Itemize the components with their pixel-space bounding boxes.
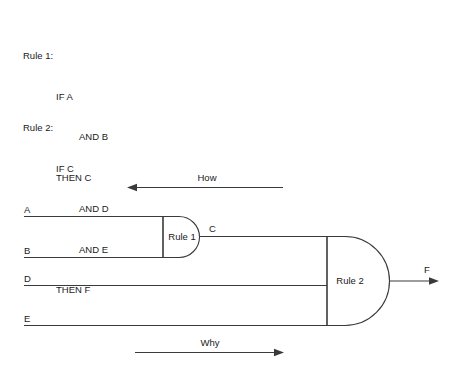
diagram-canvas: Rule 1: IF A AND B THEN C Rule 2: IF C A… bbox=[0, 0, 455, 373]
how-arrow bbox=[127, 184, 283, 191]
label-signal-b: B bbox=[24, 245, 30, 256]
label-signal-d: D bbox=[24, 273, 31, 284]
label-signal-a: A bbox=[24, 204, 30, 215]
diagram-graphics bbox=[0, 0, 455, 373]
label-signal-c: C bbox=[209, 223, 216, 234]
why-arrow bbox=[135, 349, 284, 356]
label-signal-f: F bbox=[424, 264, 430, 275]
label-signal-e: E bbox=[24, 313, 30, 324]
label-rule1-gate: Rule 1 bbox=[163, 231, 201, 242]
label-rule2-gate: Rule 2 bbox=[327, 275, 373, 286]
label-how: How bbox=[175, 172, 239, 183]
label-why: Why bbox=[178, 337, 242, 348]
wire-f bbox=[390, 277, 439, 284]
